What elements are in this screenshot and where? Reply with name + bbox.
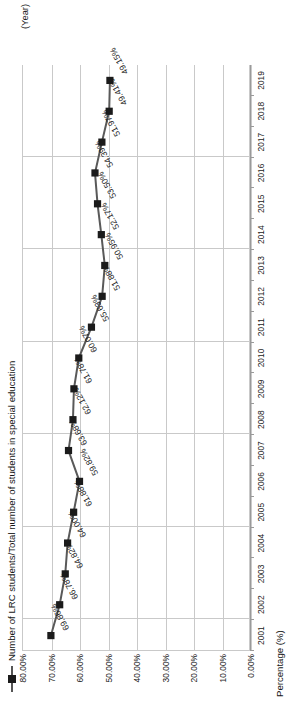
x-tick-label: 2015 bbox=[256, 194, 266, 213]
x-tick-mark bbox=[250, 619, 254, 620]
legend-label: Number of LRC students/Total number of s… bbox=[6, 361, 17, 661]
x-tick-mark bbox=[250, 342, 254, 343]
gridline bbox=[251, 65, 252, 650]
x-tick-label: 2012 bbox=[256, 287, 266, 306]
data-point-marker[interactable] bbox=[47, 632, 54, 639]
chart-legend: Number of LRC students/Total number of s… bbox=[6, 361, 17, 692]
x-tick-label: 2007 bbox=[256, 441, 266, 460]
x-axis-title: (Year) bbox=[20, 4, 30, 29]
chart-canvas: Number of LRC students/Total number of s… bbox=[0, 0, 291, 714]
y-tick-label: 0.00% bbox=[246, 654, 256, 678]
x-tick-mark bbox=[250, 465, 254, 466]
x-tick-label: 2011 bbox=[256, 318, 266, 336]
x-tick-label: 2001 bbox=[256, 626, 266, 645]
x-tick-label: 2006 bbox=[256, 472, 266, 491]
x-tick-mark bbox=[250, 249, 254, 250]
x-tick-mark bbox=[250, 496, 254, 497]
x-tick-label: 2019 bbox=[256, 71, 266, 90]
x-tick-mark bbox=[250, 650, 254, 651]
data-point-marker[interactable] bbox=[88, 324, 95, 331]
y-tick-label: 70.00% bbox=[47, 654, 57, 682]
x-tick-mark bbox=[250, 218, 254, 219]
x-tick-mark bbox=[250, 588, 254, 589]
x-tick-label: 2013 bbox=[256, 256, 266, 275]
x-tick-mark bbox=[250, 280, 254, 281]
y-axis-title: Percentage (%) bbox=[274, 630, 285, 697]
y-tick-label: 30.00% bbox=[161, 654, 171, 682]
line-chart: Number of LRC students/Total number of s… bbox=[0, 0, 291, 714]
x-tick-mark bbox=[250, 527, 254, 528]
x-tick-mark bbox=[250, 372, 254, 373]
x-tick-mark bbox=[250, 187, 254, 188]
x-tick-mark bbox=[250, 126, 254, 127]
y-tick-label: 10.00% bbox=[218, 654, 228, 682]
square-marker-icon bbox=[7, 666, 17, 692]
series-layer bbox=[22, 65, 250, 651]
x-tick-label: 2010 bbox=[256, 349, 266, 368]
y-tick-label: 50.00% bbox=[104, 654, 114, 682]
data-point-marker[interactable] bbox=[65, 447, 72, 454]
y-tick-label: 80.00% bbox=[18, 654, 28, 682]
x-tick-label: 2008 bbox=[256, 410, 266, 429]
y-tick-label: 60.00% bbox=[75, 654, 85, 682]
y-tick-label: 40.00% bbox=[132, 654, 142, 682]
rotated-page-wrapper: Number of LRC students/Total number of s… bbox=[0, 0, 291, 714]
x-tick-label: 2003 bbox=[256, 565, 266, 584]
x-tick-mark bbox=[250, 434, 254, 435]
x-tick-mark bbox=[250, 557, 254, 558]
x-tick-mark bbox=[250, 157, 254, 158]
x-tick-mark bbox=[250, 311, 254, 312]
x-tick-label: 2002 bbox=[256, 595, 266, 614]
x-tick-mark bbox=[250, 95, 254, 96]
x-tick-label: 2016 bbox=[256, 164, 266, 183]
y-tick-label: 20.00% bbox=[189, 654, 199, 682]
x-axis-line bbox=[250, 65, 251, 651]
x-tick-mark bbox=[250, 403, 254, 404]
x-tick-label: 2005 bbox=[256, 503, 266, 522]
x-tick-label: 2017 bbox=[256, 133, 266, 152]
x-tick-label: 2014 bbox=[256, 225, 266, 244]
x-tick-label: 2018 bbox=[256, 102, 266, 121]
x-tick-label: 2004 bbox=[256, 534, 266, 553]
x-tick-label: 2009 bbox=[256, 380, 266, 399]
